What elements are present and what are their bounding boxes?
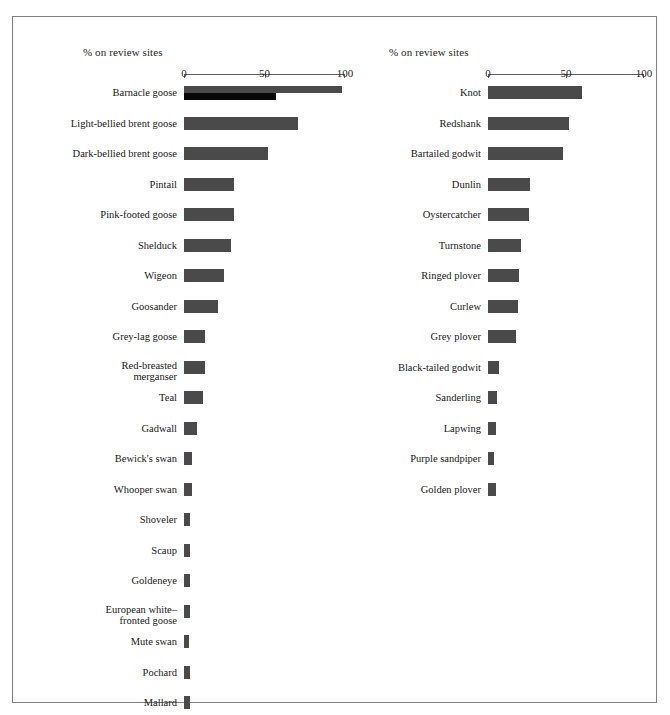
bar-row-label: Teal [159, 392, 177, 404]
bar-row: Purple sandpiper [361, 447, 670, 478]
bar-row-label: Shoveler [140, 514, 177, 526]
bar-plot-area [184, 661, 345, 692]
bar-row-label: Golden plover [421, 484, 481, 496]
bar-plot-area [488, 173, 644, 204]
bar-row-label: Lapwing [444, 423, 481, 435]
bar-row: Grey-lag goose [31, 325, 361, 356]
bar-row-label: Oystercatcher [423, 209, 481, 221]
bar-row: Pintail [31, 173, 361, 204]
bar-row: Goldeneye [31, 569, 361, 600]
bar-row-label: Grey plover [431, 331, 481, 343]
right-axis-tick-label-50: 50 [561, 67, 572, 79]
bar-row-label: Scaup [151, 545, 177, 557]
bar-row-label: Turnstone [439, 240, 481, 252]
bar-row-label: Black-tailed godwit [398, 362, 481, 374]
left-axis-tick-label-100: 100 [337, 67, 354, 79]
bar-row-label: Whooper swan [114, 484, 177, 496]
bar [488, 178, 530, 191]
bar-plot-area [488, 81, 644, 112]
bar-plot-area [488, 386, 644, 417]
bar [488, 452, 494, 465]
bar-row-label: Redshank [440, 118, 481, 130]
bar-row-label: Mute swan [131, 636, 177, 648]
bar-row: Bewick's swan [31, 447, 361, 478]
left-chart-panel: % on review sites 050100 Barnacle gooseL… [31, 17, 361, 702]
bar-plot-area [184, 173, 345, 204]
bar-row: Shoveler [31, 508, 361, 539]
bar [184, 269, 224, 282]
bar [184, 574, 190, 587]
bar-row: Pink-footed goose [31, 203, 361, 234]
bar [488, 239, 521, 252]
figure-frame: % on review sites 050100 Barnacle gooseL… [12, 16, 657, 703]
bar-row: Black-tailed godwit [361, 356, 670, 387]
bar-row: Bartailed godwit [361, 142, 670, 173]
bar [184, 117, 298, 130]
bar-row-label: Pintail [150, 179, 177, 191]
bar [184, 544, 190, 557]
bar-row-label: Knot [460, 87, 481, 99]
bar [488, 269, 519, 282]
bar-row-label: Dark-bellied brent goose [73, 148, 177, 160]
bar [488, 422, 496, 435]
bar-plot-area [488, 417, 644, 448]
bar-plot-area [488, 203, 644, 234]
bar [488, 86, 582, 99]
bar-row-label: Sanderling [436, 392, 482, 404]
bar-plot-area [184, 539, 345, 570]
bar-plot-area [184, 569, 345, 600]
bar-plot-area [184, 630, 345, 661]
bar-plot-area [488, 112, 644, 143]
bar-row-label: Ringed plover [421, 270, 481, 282]
bar-row-label: Pochard [143, 667, 177, 679]
bar-row-label: Red-breasted merganser [122, 360, 177, 383]
bar [184, 86, 342, 93]
bar-plot-area [488, 142, 644, 173]
bar [184, 208, 234, 221]
bar-row: Teal [31, 386, 361, 417]
bar-row: Pochard [31, 661, 361, 692]
bar [488, 117, 569, 130]
bar-row: Mute swan [31, 630, 361, 661]
bar-plot-area [184, 386, 345, 417]
bar-plot-area [184, 234, 345, 265]
bar-plot-area [488, 264, 644, 295]
bar-row: Wigeon [31, 264, 361, 295]
bar-row: Light-bellied brent goose [31, 112, 361, 143]
bar [488, 300, 518, 313]
bar-plot-area [184, 112, 345, 143]
bar-plot-area [488, 447, 644, 478]
bar-plot-area [184, 142, 345, 173]
bar-row-label: Dunlin [452, 179, 481, 191]
bar-plot-area [184, 81, 345, 112]
bar [184, 422, 197, 435]
bar-row: Redshank [361, 112, 670, 143]
bar-row: Mallard [31, 691, 361, 715]
bar-row-label: Wigeon [144, 270, 177, 282]
bar [184, 605, 190, 618]
bar-row: Scaup [31, 539, 361, 570]
bar [184, 391, 203, 404]
bar [184, 452, 192, 465]
bar-row-label: Gadwall [141, 423, 177, 435]
bar-row: Dunlin [361, 173, 670, 204]
bar-row: Dark-bellied brent goose [31, 142, 361, 173]
bar-row-label: Bartailed godwit [411, 148, 481, 160]
bar-row-label: Purple sandpiper [410, 453, 481, 465]
bar [184, 483, 192, 496]
bar-plot-area [184, 295, 345, 326]
bar [184, 635, 189, 648]
bar [184, 666, 190, 679]
bar-row: Red-breasted merganser [31, 356, 361, 387]
bar-row-label: Goosander [132, 301, 178, 313]
bar [488, 147, 563, 160]
bar-row: Whooper swan [31, 478, 361, 509]
bar [184, 330, 205, 343]
bar-row-label: Pink-footed goose [100, 209, 177, 221]
bar-row: Sanderling [361, 386, 670, 417]
bar-row-label: Curlew [450, 301, 481, 313]
bar-plot-area [184, 508, 345, 539]
bar-row: Curlew [361, 295, 670, 326]
bar [184, 300, 218, 313]
right-chart-panel: % on review sites 050100 KnotRedshankBar… [361, 17, 670, 702]
